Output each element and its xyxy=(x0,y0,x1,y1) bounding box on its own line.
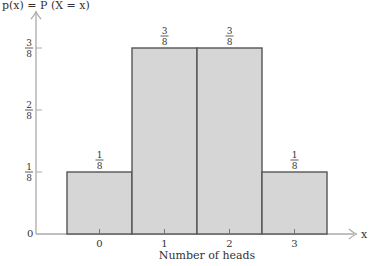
probability-histogram: p(x) = P (X = x)0182838183838180123xNumb… xyxy=(0,0,372,266)
x-axis-title: Number of heads xyxy=(159,249,256,262)
svg-text:1: 1 xyxy=(292,150,298,160)
y-tick-label: 38 xyxy=(25,38,33,59)
y-tick-label: 18 xyxy=(25,162,33,183)
x-axis-symbol: x xyxy=(361,228,368,241)
svg-text:8: 8 xyxy=(97,161,103,171)
svg-text:8: 8 xyxy=(162,37,168,47)
bar-value-label-2: 38 xyxy=(226,26,234,47)
bar-value-label-3: 18 xyxy=(291,150,299,171)
svg-text:2: 2 xyxy=(26,100,32,110)
bar-value-label-0: 18 xyxy=(96,150,104,171)
svg-text:8: 8 xyxy=(292,161,298,171)
y-tick-label-0: 0 xyxy=(27,228,33,239)
svg-text:1: 1 xyxy=(26,162,32,172)
svg-text:3: 3 xyxy=(227,26,233,36)
bar-value-label-1: 38 xyxy=(161,26,169,47)
svg-text:8: 8 xyxy=(227,37,233,47)
histogram-bar-1 xyxy=(132,48,197,234)
svg-text:8: 8 xyxy=(26,111,32,121)
histogram-bar-3 xyxy=(262,172,327,234)
y-axis-title: p(x) = P (X = x) xyxy=(2,0,90,12)
x-tick-label-0: 0 xyxy=(96,238,102,249)
x-tick-label-1: 1 xyxy=(161,238,167,249)
svg-text:8: 8 xyxy=(26,49,32,59)
svg-text:8: 8 xyxy=(26,173,32,183)
y-tick-label: 28 xyxy=(25,100,33,121)
histogram-bar-0 xyxy=(67,172,132,234)
histogram-bar-2 xyxy=(197,48,262,234)
x-tick-label-2: 2 xyxy=(226,238,232,249)
svg-text:3: 3 xyxy=(162,26,168,36)
x-tick-label-3: 3 xyxy=(291,238,297,249)
svg-text:1: 1 xyxy=(97,150,103,160)
svg-text:3: 3 xyxy=(26,38,32,48)
